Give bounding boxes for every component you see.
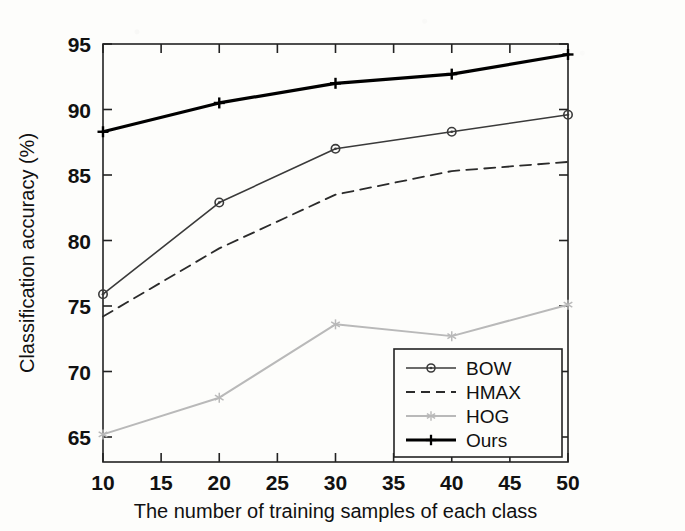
legend-label: Ours — [466, 430, 507, 451]
data-point-marker-core — [567, 113, 570, 116]
y-tick-label: 85 — [68, 164, 92, 187]
figure-container: 65707580859095101520253035404550The numb… — [0, 0, 685, 531]
data-point-marker-core — [218, 201, 221, 204]
x-tick-label: 45 — [498, 471, 522, 494]
series-line — [103, 115, 568, 294]
x-tick-label: 40 — [440, 471, 463, 494]
data-point-marker-core — [334, 148, 337, 151]
x-tick-label: 35 — [382, 471, 406, 494]
y-tick-label: 65 — [68, 426, 92, 449]
x-tick-label: 50 — [556, 471, 579, 494]
legend-label: HOG — [466, 406, 509, 427]
series-line — [103, 54, 568, 131]
series-bow — [99, 111, 572, 299]
x-axis-title: The number of training samples of each c… — [134, 500, 538, 522]
legend-label: BOW — [466, 358, 511, 379]
data-point-marker-core — [430, 367, 432, 369]
data-point-marker-core — [102, 293, 105, 296]
legend-label: HMAX — [466, 382, 521, 403]
y-tick-label: 70 — [68, 361, 91, 384]
data-point-marker-core — [450, 130, 453, 133]
x-tick-label: 15 — [149, 471, 173, 494]
x-tick-label: 10 — [91, 471, 114, 494]
y-tick-label: 95 — [68, 33, 92, 56]
x-tick-label: 20 — [208, 471, 231, 494]
y-axis-title: Classification accuracy (%) — [16, 133, 38, 373]
y-tick-label: 80 — [68, 230, 91, 253]
x-tick-label: 25 — [266, 471, 290, 494]
legend: BOWHMAXHOGOurs — [394, 349, 562, 457]
y-tick-label: 90 — [68, 99, 91, 122]
x-tick-label: 30 — [324, 471, 347, 494]
y-tick-label: 75 — [68, 295, 92, 318]
line-chart: 65707580859095101520253035404550The numb… — [0, 0, 685, 531]
